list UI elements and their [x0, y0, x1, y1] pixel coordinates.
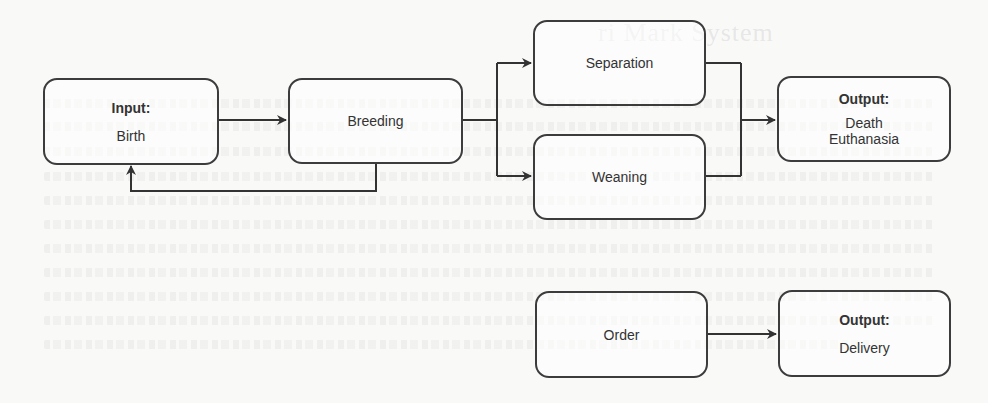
- node-label: Birth: [117, 128, 146, 144]
- node-order: Order: [535, 291, 708, 378]
- node-label: Delivery: [839, 340, 890, 356]
- node-label: Order: [604, 327, 640, 343]
- node-label: Weaning: [592, 169, 647, 185]
- node-label: Separation: [586, 55, 654, 71]
- node-label-line-2: Euthanasia: [829, 131, 899, 147]
- node-input-birth: Input: Birth: [43, 78, 219, 165]
- node-output-death: Output: Death Euthanasia: [777, 76, 951, 162]
- node-heading: Output:: [839, 312, 890, 328]
- node-breeding: Breeding: [288, 78, 463, 164]
- node-separation: Separation: [533, 20, 706, 106]
- node-output-delivery: Output: Delivery: [778, 290, 951, 377]
- node-weaning: Weaning: [533, 134, 706, 220]
- node-label-line-1: Death: [845, 115, 882, 131]
- edge-breeding-to-birth-loop: [131, 163, 376, 191]
- node-label: Breeding: [347, 113, 403, 129]
- node-heading: Input:: [112, 100, 151, 116]
- node-heading: Output:: [839, 91, 890, 107]
